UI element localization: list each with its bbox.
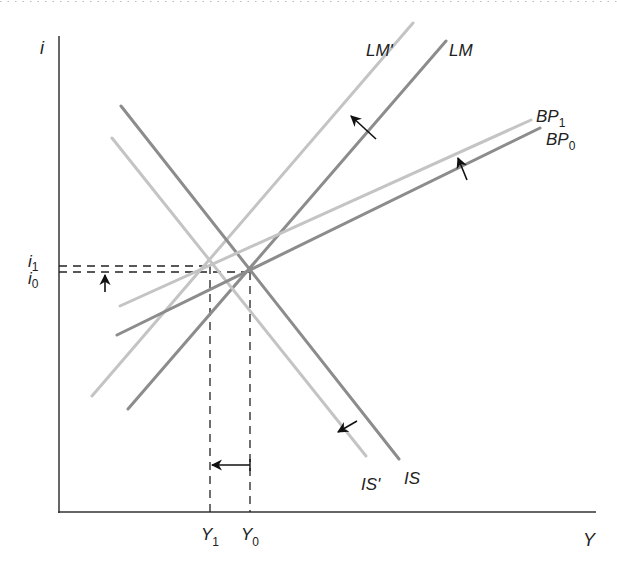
curve-is	[121, 106, 399, 459]
curve-lm	[128, 41, 446, 409]
labels: i Y i1 i0 Y1 Y0 LM' LM BP1 BP0 IS' IS	[28, 38, 597, 550]
is-prime-label: IS'	[361, 475, 381, 494]
curve-bp0	[117, 128, 540, 335]
bp1-label: BP1	[536, 107, 566, 130]
lm-prime-label: LM'	[366, 41, 394, 60]
axes	[58, 36, 596, 513]
is-lm-bp-diagram: i Y i1 i0 Y1 Y0 LM' LM BP1 BP0 IS' IS	[0, 0, 617, 573]
is-label: IS	[404, 469, 421, 488]
curve-bp1	[120, 120, 531, 306]
y1-tick-label: Y1	[201, 525, 219, 549]
curves	[92, 23, 540, 459]
curve-is-prime	[112, 138, 366, 456]
y0-tick-label: Y0	[241, 525, 259, 549]
bp0-label: BP0	[546, 130, 576, 153]
y-axis-label: i	[40, 38, 45, 58]
x-axis-label: Y	[583, 530, 597, 550]
lm-label: LM	[449, 41, 473, 60]
curve-lm-prime	[92, 23, 413, 396]
